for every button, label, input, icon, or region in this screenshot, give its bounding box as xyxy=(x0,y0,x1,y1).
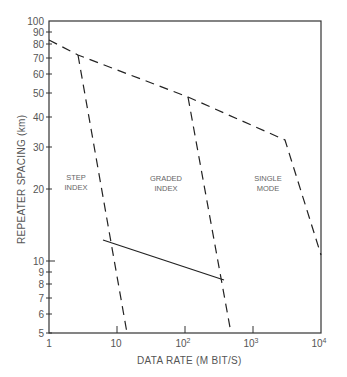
y-tick-7: 7 xyxy=(38,293,44,304)
y-tick-90: 90 xyxy=(33,27,45,38)
single-mode-label-1: SINGLE xyxy=(254,174,282,183)
y-tick-40: 40 xyxy=(33,112,45,123)
chart: 5 6 7 8 9 10 20 30 40 50 60 70 80 90 100… xyxy=(0,0,347,377)
x-tick-10: 10 xyxy=(110,338,122,349)
y-tick-20: 20 xyxy=(33,184,45,195)
step-index-bound-line xyxy=(78,55,127,333)
x-tick-1000: 103 xyxy=(243,337,258,349)
x-axis-title: DATA RATE (M BIT/S) xyxy=(137,355,242,366)
x-axis-ticks xyxy=(117,326,253,333)
y-tick-6: 6 xyxy=(38,309,44,320)
y-tick-70: 70 xyxy=(33,53,45,64)
x-tick-10000: 104 xyxy=(311,337,326,349)
y-tick-80: 80 xyxy=(33,39,45,50)
y-tick-50: 50 xyxy=(33,88,45,99)
graded-index-bound-line xyxy=(188,97,231,333)
y-axis-tick-labels: 5 6 7 8 9 10 20 30 40 50 60 70 80 90 100 xyxy=(27,16,44,339)
x-tick-1: 1 xyxy=(46,338,52,349)
solid-line xyxy=(103,240,224,280)
step-index-label-2: INDEX xyxy=(65,183,88,192)
dashed-bounds xyxy=(49,40,321,333)
step-index-label-1: STEP xyxy=(66,173,86,182)
x-axis-tick-labels: 1 10 102 103 104 xyxy=(46,337,326,349)
graded-index-label-2: INDEX xyxy=(155,184,178,193)
y-tick-8: 8 xyxy=(38,279,44,290)
y-tick-10: 10 xyxy=(33,256,45,267)
y-tick-9: 9 xyxy=(38,267,44,278)
region-labels: STEP INDEX GRADED INDEX SINGLE MODE xyxy=(65,173,282,193)
y-axis-title: REPEATER SPACING (km) xyxy=(16,115,27,244)
single-mode-label-2: MODE xyxy=(257,184,280,193)
y-axis-ticks xyxy=(46,32,55,333)
graded-index-label-1: GRADED xyxy=(150,174,183,183)
upper-bound-line xyxy=(49,40,321,255)
y-tick-60: 60 xyxy=(33,69,45,80)
y-tick-5: 5 xyxy=(38,328,44,339)
y-tick-30: 30 xyxy=(33,142,45,153)
x-tick-100: 102 xyxy=(175,337,190,349)
y-tick-100: 100 xyxy=(27,16,44,27)
